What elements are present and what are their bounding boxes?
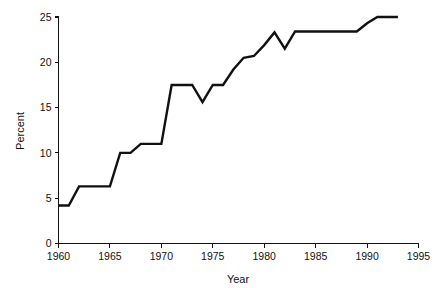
- y-tick-label: 5: [46, 192, 52, 204]
- y-tick-label: 0: [46, 237, 52, 249]
- y-axis-title: Percent: [14, 112, 26, 150]
- x-tick-label: 1975: [201, 250, 225, 262]
- y-tick-label: 20: [40, 56, 52, 68]
- x-tick-label: 1970: [150, 250, 174, 262]
- chart-container: Percent Year 0510152025 1960196519701975…: [0, 0, 442, 288]
- data-series-layer: [59, 17, 398, 205]
- y-tick-label: 15: [40, 101, 52, 113]
- y-tick-label: 10: [40, 147, 52, 159]
- x-tick-label: 1990: [355, 250, 379, 262]
- line-chart: Percent Year 0510152025 1960196519701975…: [0, 0, 442, 288]
- x-tick-label: 1960: [47, 250, 71, 262]
- x-axis-title: Year: [227, 273, 250, 285]
- x-tick-label: 1995: [407, 250, 431, 262]
- y-axis-ticks: 0510152025: [40, 11, 59, 250]
- x-axis-ticks: 19601965197019751980198519901995: [47, 244, 431, 262]
- x-tick-label: 1965: [98, 250, 122, 262]
- x-tick-label: 1985: [304, 250, 328, 262]
- data-line-percent: [59, 17, 398, 205]
- x-tick-label: 1980: [253, 250, 277, 262]
- y-tick-label: 25: [40, 11, 52, 23]
